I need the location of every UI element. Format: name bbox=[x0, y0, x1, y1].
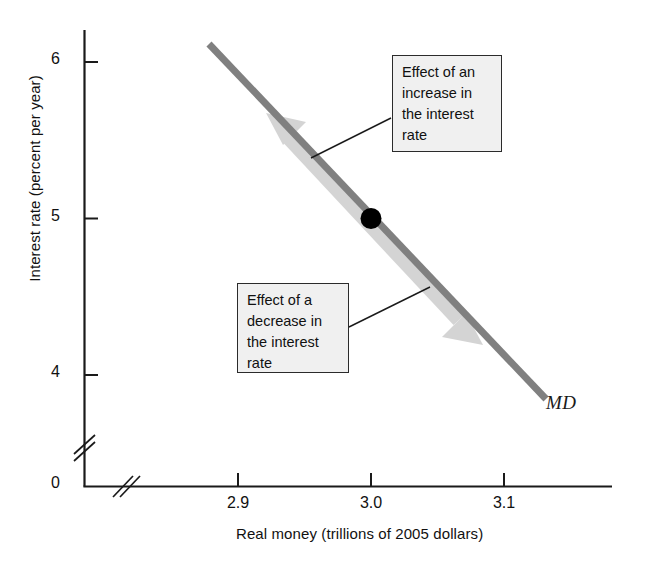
x-tick-label-3-1: 3.1 bbox=[474, 494, 534, 512]
md-curve-label: MD bbox=[546, 392, 577, 414]
decrease-callout-line-4: rate bbox=[247, 353, 340, 374]
x-tick-marks bbox=[238, 473, 504, 487]
increase-callout-line-2: increase in bbox=[402, 83, 493, 104]
y-tick-label-0: 0 bbox=[30, 474, 60, 492]
increase-callout-line-3: the interest bbox=[402, 104, 493, 125]
y-tick-label-6: 6 bbox=[30, 50, 60, 68]
money-demand-chart: Interest rate (percent per year) Real mo… bbox=[0, 0, 651, 563]
axis-lines bbox=[83, 30, 612, 487]
increase-callout-line-4: rate bbox=[402, 125, 493, 146]
increase-callout-line-1: Effect of an bbox=[402, 62, 493, 83]
y-axis-title: Interest rate (percent per year) bbox=[26, 49, 43, 309]
chart-canvas bbox=[0, 0, 651, 563]
decrease-callout-line-1: Effect of a bbox=[247, 290, 340, 311]
increase-leader-line bbox=[311, 118, 391, 158]
decrease-callout-line-3: the interest bbox=[247, 332, 340, 353]
decrease-leader-line bbox=[349, 287, 430, 327]
increase-callout: Effect of an increase in the interest ra… bbox=[392, 55, 502, 152]
equilibrium-point bbox=[361, 208, 382, 229]
x-tick-label-3-0: 3.0 bbox=[341, 494, 401, 512]
x-tick-label-2-9: 2.9 bbox=[208, 494, 268, 512]
y-tick-label-4: 4 bbox=[30, 363, 60, 381]
decrease-callout: Effect of a decrease in the interest rat… bbox=[237, 283, 349, 373]
x-axis-title: Real money (trillions of 2005 dollars) bbox=[236, 525, 483, 542]
y-tick-label-5: 5 bbox=[30, 207, 60, 225]
decrease-callout-line-2: decrease in bbox=[247, 311, 340, 332]
y-tick-marks bbox=[85, 62, 99, 375]
